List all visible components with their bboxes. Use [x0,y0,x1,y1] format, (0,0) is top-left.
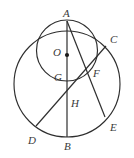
point-label-A: A [63,8,70,19]
point-label-O: O [53,47,61,58]
point-label-F: F [93,68,100,79]
point-label-D: D [28,135,36,146]
point-label-G: G [54,72,62,83]
point-label-E: E [110,122,117,133]
point-label-B: B [64,141,71,152]
center-point-dot [65,53,69,57]
diagram-canvas [0,0,134,158]
point-label-H: H [71,98,79,109]
segment-DC [36,46,106,126]
point-label-C: C [110,34,117,45]
geometry-figure: A O C F G H D B E [0,0,134,158]
